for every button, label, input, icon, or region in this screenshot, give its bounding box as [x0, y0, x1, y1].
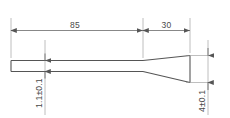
dimension-label-thickness-tip: 4±0.1 [197, 90, 207, 112]
dimension-label-85: 85 [70, 20, 80, 30]
technical-drawing-canvas: 85 30 1.1±0.1 4±0.1 [0, 0, 230, 118]
dimension-label-thickness-shank: 1.1±0.1 [34, 78, 44, 108]
dimension-label-30: 30 [162, 20, 172, 30]
drawing-svg: 85 30 1.1±0.1 4±0.1 [0, 0, 230, 118]
